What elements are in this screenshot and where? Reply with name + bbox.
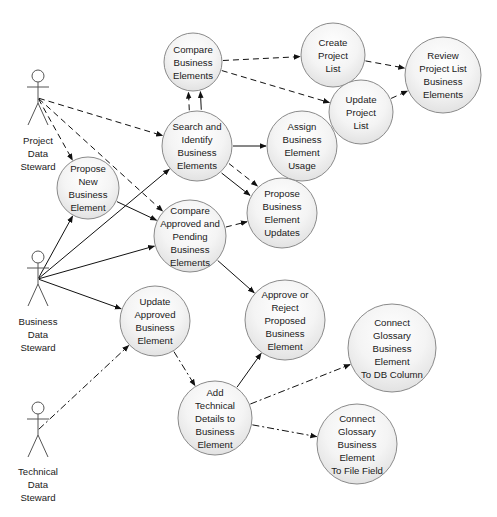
use-case-review-pl	[405, 37, 481, 113]
actor-label-bds: Business Data Steward	[3, 315, 73, 354]
actor-tds	[27, 402, 49, 457]
actor-label-tds: Technical Data Steward	[3, 465, 73, 504]
use-case-propose-updates	[247, 178, 317, 248]
use-case-diagram	[0, 0, 497, 517]
use-case-compare-ap	[154, 200, 226, 272]
link-update-approved-to-add-tech	[174, 352, 195, 386]
actor-bds	[27, 251, 49, 306]
link-bds-to-propose-new	[38, 216, 72, 278]
use-case-update-pl	[329, 80, 393, 144]
actor-head	[32, 251, 44, 263]
use-case-add-tech	[178, 381, 252, 455]
use-case-update-approved	[120, 286, 190, 356]
link-tds-to-update-approved	[39, 346, 129, 430]
link-add-tech-to-connect-file	[252, 425, 316, 437]
actor-right-leg	[38, 284, 48, 306]
actor-pds	[27, 70, 49, 125]
link-bds-to-compare-ap	[39, 246, 154, 279]
link-search-be-to-compare-be	[188, 92, 189, 110]
link-add-tech-to-connect-db	[250, 365, 350, 404]
link-propose-new-to-compare-ap	[117, 202, 157, 221]
link-bds-to-update-approved	[39, 279, 121, 308]
use-case-compare-be	[164, 33, 222, 91]
use-case-approve-reject	[245, 280, 325, 360]
link-compare-be-to-create-pl	[223, 57, 300, 61]
link-compare-ap-to-approve-reject	[218, 261, 255, 293]
actor-label-pds: Project Data Steward	[3, 134, 73, 173]
actor-left-leg	[28, 284, 38, 306]
actor-head	[32, 402, 44, 414]
link-create-pl-to-review-pl	[365, 61, 404, 68]
use-case-assign-usage	[267, 111, 337, 181]
link-update-pl-to-review-pl	[391, 91, 407, 98]
link-search-be-to-compare-be	[200, 92, 201, 110]
actor-right-leg	[38, 435, 48, 457]
link-compare-ap-to-propose-updates	[226, 222, 247, 227]
use-case-search-be	[162, 111, 232, 181]
actor-left-leg	[28, 435, 38, 457]
actor-left-leg	[28, 103, 38, 125]
link-add-tech-to-approve-reject	[237, 353, 261, 387]
actor-head	[32, 70, 44, 82]
use-case-connect-db	[348, 304, 436, 392]
link-pds-to-search-be	[39, 98, 163, 135]
use-case-create-pl	[301, 23, 365, 87]
use-case-connect-file	[317, 404, 397, 484]
